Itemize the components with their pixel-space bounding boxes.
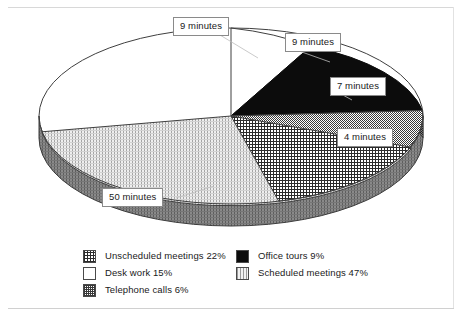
legend-label-desk-work: Desk work 15% [105, 268, 172, 278]
callout-scheduled-meetings: 50 minutes [102, 188, 163, 207]
callout-unscheduled-meetings: 7 minutes [330, 77, 386, 96]
callout-desk-work: 9 minutes [173, 17, 229, 36]
legend-column-left: Unscheduled meetings 22% Desk work 15% T… [83, 248, 226, 299]
callout-telephone-calls: 4 minutes [337, 128, 393, 147]
legend-swatch-unscheduled-meetings-icon [83, 250, 96, 263]
chart-figure: 9 minutes 9 minutes 7 minutes 4 minutes … [0, 0, 461, 315]
legend-label-unscheduled-meetings: Unscheduled meetings 22% [105, 251, 226, 261]
legend-swatch-office-tours-icon [236, 250, 249, 263]
legend-swatch-telephone-calls-icon [83, 284, 96, 297]
legend-column-right: Office tours 9% Scheduled meetings 47% [236, 248, 368, 282]
legend-item-unscheduled-meetings: Unscheduled meetings 22% [83, 248, 226, 264]
legend-label-scheduled-meetings: Scheduled meetings 47% [258, 268, 368, 278]
legend-item-scheduled-meetings: Scheduled meetings 47% [236, 265, 368, 281]
callout-office-tours: 9 minutes [285, 33, 341, 52]
legend-label-telephone-calls: Telephone calls 6% [105, 285, 189, 295]
legend-swatch-scheduled-meetings-icon [236, 267, 249, 280]
chart-legend: Unscheduled meetings 22% Desk work 15% T… [83, 248, 393, 300]
legend-swatch-desk-work-icon [83, 267, 96, 280]
legend-item-desk-work: Desk work 15% [83, 265, 226, 281]
legend-item-office-tours: Office tours 9% [236, 248, 368, 264]
legend-item-telephone-calls: Telephone calls 6% [83, 282, 226, 298]
legend-label-office-tours: Office tours 9% [258, 251, 324, 261]
